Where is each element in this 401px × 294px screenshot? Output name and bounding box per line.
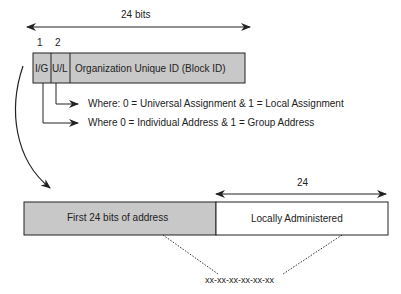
bit-number-1: 1 [37, 37, 43, 48]
top-width-label: 24 bits [121, 9, 150, 20]
ul-note: Where: 0 = Universal Assignment & 1 = Lo… [88, 98, 344, 109]
ig-note: Where 0 = Individual Address & 1 = Group… [88, 117, 314, 128]
field-ul: U/L [52, 63, 68, 74]
field-oui: Organization Unique ID (Block ID) [75, 63, 226, 74]
field-ig: I/G [35, 63, 48, 74]
field-locally-administered: Locally Administered [251, 213, 343, 224]
field-first-24: First 24 bits of address [67, 212, 168, 223]
ul-connector-arrow [56, 83, 78, 104]
address-format: xx-xx-xx-xx-xx-xx [205, 275, 274, 285]
bit-number-2: 2 [55, 37, 61, 48]
ig-connector-arrow [43, 83, 78, 123]
bottom-width-label: 24 [297, 177, 308, 188]
curved-arrow [16, 66, 50, 188]
